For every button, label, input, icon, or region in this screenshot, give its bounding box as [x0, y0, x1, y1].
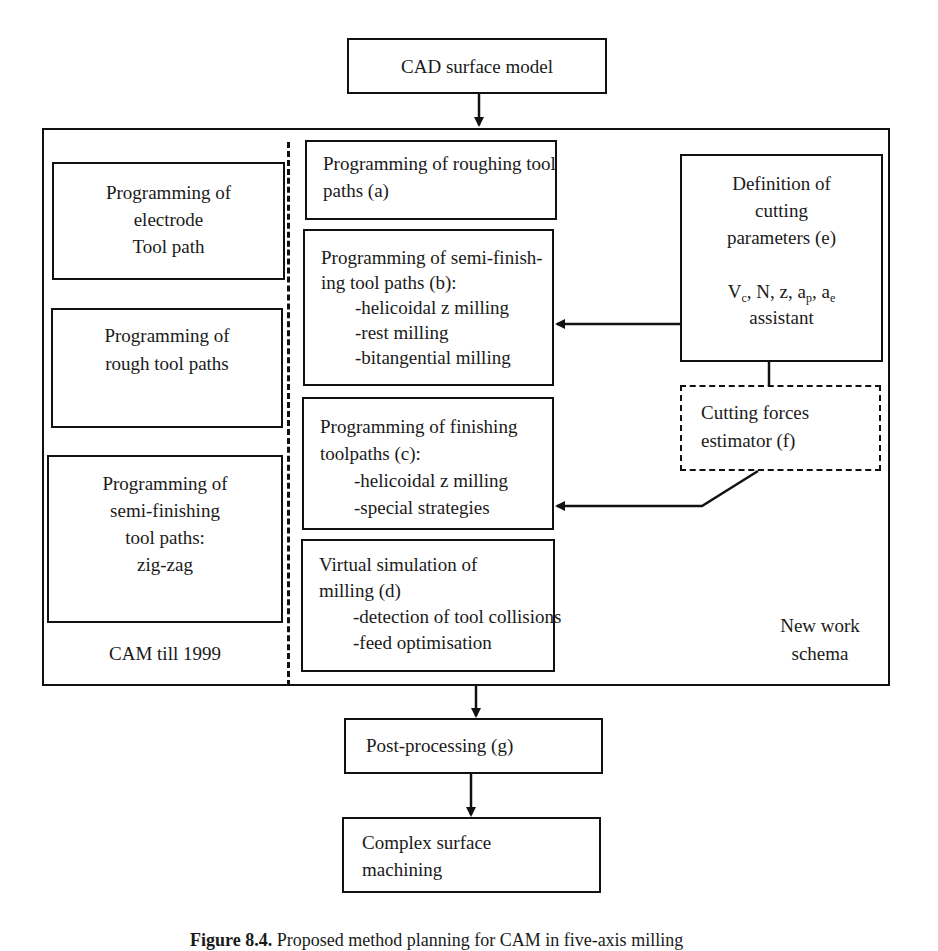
zigzag-line-1: Programming of — [49, 470, 281, 497]
roughing-line-2: paths (a) — [323, 177, 389, 204]
params-line-3: parameters (e) — [682, 224, 881, 251]
figure-caption: Figure 8.4. Proposed method planning for… — [190, 930, 683, 951]
post-processing-box: Post-processing (g) — [344, 718, 603, 774]
params-formula: Vc, N, z, ap, ae — [682, 278, 881, 305]
cam-till-1999-label: CAM till 1999 — [47, 640, 283, 667]
post-processing-label: Post-processing (g) — [366, 732, 513, 759]
forces-line-1: Cutting forces — [701, 399, 809, 426]
semi-finishing-toolpaths-box: Programming of semi-finish- ing tool pat… — [303, 229, 554, 386]
cad-surface-model-box: CAD surface model — [347, 38, 607, 94]
semi-line-1: Programming of semi-finish- — [321, 244, 543, 271]
semi-item-3: -bitangential milling — [321, 344, 511, 371]
new-work-schema-line-1: New work — [760, 612, 880, 639]
params-line-2: cutting — [682, 197, 881, 224]
zigzag-line-2: semi-finishing — [49, 497, 281, 524]
caption-prefix: Figure 8.4. — [190, 930, 272, 950]
electrode-toolpath-box: Programming of electrode Tool path — [52, 162, 285, 280]
semi-finishing-zigzag-box: Programming of semi-finishing tool paths… — [47, 455, 283, 623]
params-line-1: Definition of — [682, 170, 881, 197]
complex-line-2: machining — [362, 856, 442, 883]
virtual-item-1: -detection of tool collisions — [319, 603, 561, 630]
forces-line-2: estimator (f) — [701, 427, 795, 454]
semi-line-2: ing tool paths (b): — [321, 269, 457, 296]
electrode-line-1: Programming of — [54, 179, 283, 206]
params-assistant: assistant — [682, 304, 881, 331]
finish-item-2: -special strategies — [320, 494, 490, 521]
zigzag-line-3: tool paths: — [49, 524, 281, 551]
params-rest-2: , a — [812, 281, 830, 302]
ae-subscript: e — [830, 291, 835, 305]
rough-line-2: rough tool paths — [53, 350, 281, 377]
roughing-toolpaths-box: Programming of roughing tool paths (a) — [305, 140, 557, 220]
electrode-line-2: electrode — [54, 206, 283, 233]
params-rest-1: , N, z, a — [747, 281, 806, 302]
new-work-schema-line-2: schema — [760, 640, 880, 667]
electrode-line-3: Tool path — [54, 233, 283, 260]
complex-line-1: Complex surface — [362, 829, 491, 856]
caption-text: Proposed method planning for CAM in five… — [272, 930, 683, 950]
finish-line-2: toolpaths (c): — [320, 440, 421, 467]
semi-item-1: -helicoidal z milling — [321, 294, 509, 321]
rough-line-1: Programming of — [53, 322, 281, 349]
finishing-toolpaths-box: Programming of finishing toolpaths (c): … — [302, 397, 554, 530]
cad-surface-model-label: CAD surface model — [349, 53, 605, 80]
complex-surface-machining-box: Complex surface machining — [342, 817, 601, 893]
semi-item-2: -rest milling — [321, 319, 448, 346]
vc-symbol: V — [728, 281, 742, 302]
roughing-line-1: Programming of roughing tool — [323, 150, 556, 177]
virtual-line-2: milling (d) — [319, 577, 401, 604]
virtual-line-1: Virtual simulation of — [319, 551, 477, 578]
schema-divider — [287, 142, 290, 686]
finish-line-1: Programming of finishing — [320, 413, 517, 440]
zigzag-line-4: zig-zag — [49, 551, 281, 578]
cutting-forces-estimator-box: Cutting forces estimator (f) — [680, 385, 881, 471]
finish-item-1: -helicoidal z milling — [320, 467, 508, 494]
virtual-item-2: -feed optimisation — [319, 629, 492, 656]
virtual-simulation-box: Virtual simulation of milling (d) -detec… — [301, 539, 555, 672]
cutting-parameters-box: Definition of cutting parameters (e) Vc,… — [680, 154, 883, 362]
rough-toolpaths-box: Programming of rough tool paths — [51, 308, 283, 428]
